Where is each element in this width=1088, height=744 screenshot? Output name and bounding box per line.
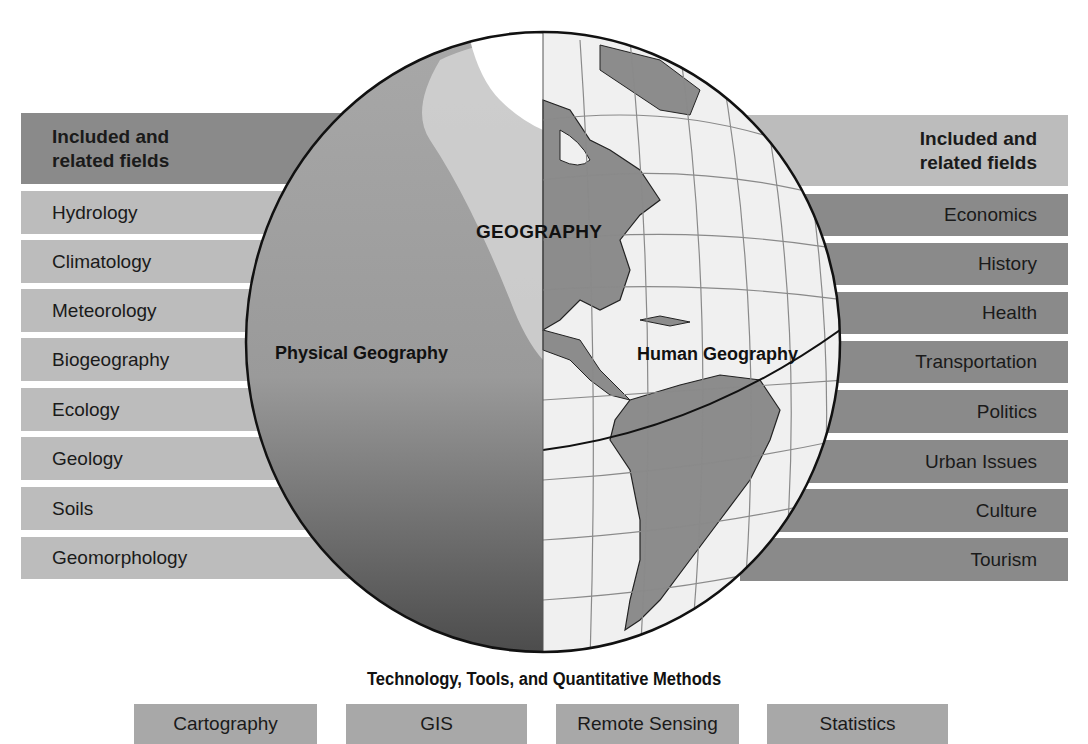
field-history: History — [740, 243, 1068, 285]
right-header-line-1: Included and — [920, 127, 1037, 151]
field-soils: Soils — [21, 487, 351, 530]
field-hydrology: Hydrology — [21, 191, 351, 234]
field-biogeography: Biogeography — [21, 338, 351, 381]
left-header-line-2: related fields — [52, 149, 169, 173]
tool-cartography: Cartography — [134, 704, 317, 744]
field-ecology: Ecology — [21, 388, 351, 431]
field-health: Health — [740, 292, 1068, 334]
tools-title: Technology, Tools, and Quantitative Meth… — [44, 669, 1045, 690]
field-politics: Politics — [740, 390, 1068, 433]
tool-statistics: Statistics — [767, 704, 948, 744]
tool-remote-sensing: Remote Sensing — [556, 704, 739, 744]
north-america-relief — [422, 38, 543, 360]
greenland-land — [600, 45, 700, 115]
field-economics: Economics — [740, 194, 1068, 236]
field-tourism: Tourism — [740, 538, 1068, 581]
field-transportation: Transportation — [740, 341, 1068, 383]
right-header-line-2: related fields — [920, 151, 1037, 175]
tool-gis: GIS — [346, 704, 527, 744]
central-america-land — [543, 330, 630, 400]
field-climatology: Climatology — [21, 240, 351, 283]
field-urban-issues: Urban Issues — [740, 440, 1068, 483]
geography-title: GEOGRAPHY — [476, 221, 602, 243]
right-panel-header: Included and related fields — [740, 115, 1068, 186]
field-geomorphology: Geomorphology — [21, 537, 351, 579]
caribbean-islands — [640, 316, 690, 326]
field-geology: Geology — [21, 437, 351, 480]
hudson-bay — [560, 130, 590, 165]
arctic-ice — [470, 33, 543, 130]
left-header-line-1: Included and — [52, 125, 169, 149]
north-america-land — [543, 100, 660, 330]
field-culture: Culture — [740, 489, 1068, 532]
left-panel-header: Included and related fields — [21, 113, 351, 184]
field-meteorology: Meteorology — [21, 289, 351, 332]
